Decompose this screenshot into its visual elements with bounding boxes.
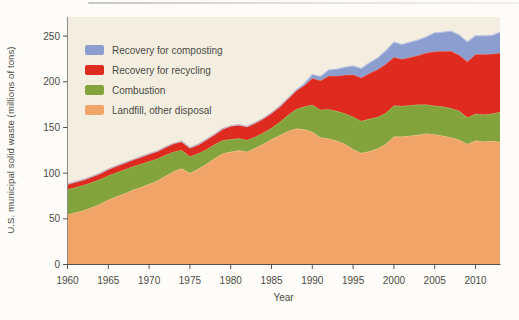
y-axis-title: U.S. municipal solid waste (millions of …: [5, 18, 17, 262]
legend-item: Recovery for recycling: [85, 65, 223, 75]
x-tick-label: 1985: [260, 275, 283, 286]
x-tick-label: 1990: [301, 275, 324, 286]
y-tick-label: 0: [54, 259, 60, 270]
y-tick-label: 50: [49, 213, 61, 224]
stacked-area-chart: 0501001502002501960196519701975198019851…: [0, 0, 519, 320]
figure: 0501001502002501960196519701975198019851…: [0, 0, 519, 320]
legend-swatch-landfill-other-disposal: [85, 105, 104, 115]
x-tick-label: 1960: [56, 275, 79, 286]
y-tick-label: 200: [43, 76, 60, 87]
legend-item: Landfill, other disposal: [85, 105, 223, 115]
x-axis-title: Year: [67, 292, 500, 303]
legend-label: Landfill, other disposal: [112, 105, 212, 116]
legend: Recovery for compostingRecovery for recy…: [85, 45, 223, 125]
legend-swatch-combustion: [85, 85, 104, 95]
scan-artifact-line: [88, 2, 519, 4]
x-tick-label: 2010: [464, 275, 487, 286]
legend-item: Recovery for composting: [85, 45, 223, 55]
y-tick-label: 250: [43, 31, 60, 42]
legend-swatch-recovery-for-composting: [85, 45, 104, 55]
x-tick-label: 1965: [97, 275, 120, 286]
legend-label: Recovery for composting: [112, 45, 223, 56]
y-tick-label: 100: [43, 168, 60, 179]
x-tick-label: 2000: [383, 275, 406, 286]
legend-item: Combustion: [85, 85, 223, 95]
x-tick-label: 1975: [179, 275, 202, 286]
legend-swatch-recovery-for-recycling: [85, 65, 104, 75]
x-tick-label: 1970: [138, 275, 161, 286]
y-tick-label: 150: [43, 122, 60, 133]
x-tick-label: 2005: [424, 275, 447, 286]
legend-label: Recovery for recycling: [112, 65, 211, 76]
legend-label: Combustion: [112, 85, 165, 96]
x-tick-label: 1980: [220, 275, 243, 286]
x-tick-label: 1995: [342, 275, 365, 286]
